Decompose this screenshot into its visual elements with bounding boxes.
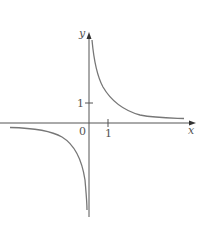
curve-right-branch [92, 40, 184, 119]
curve-left-branch [10, 128, 87, 211]
y-axis-label: y [78, 27, 86, 40]
x-axis-label: x [188, 124, 195, 137]
x-tick-label-1: 1 [105, 127, 112, 140]
origin-label: 0 [79, 125, 86, 138]
y-axis-arrow-icon [87, 32, 92, 39]
graph: y x 0 1 1 [0, 0, 209, 228]
y-tick-label-1: 1 [77, 97, 84, 110]
